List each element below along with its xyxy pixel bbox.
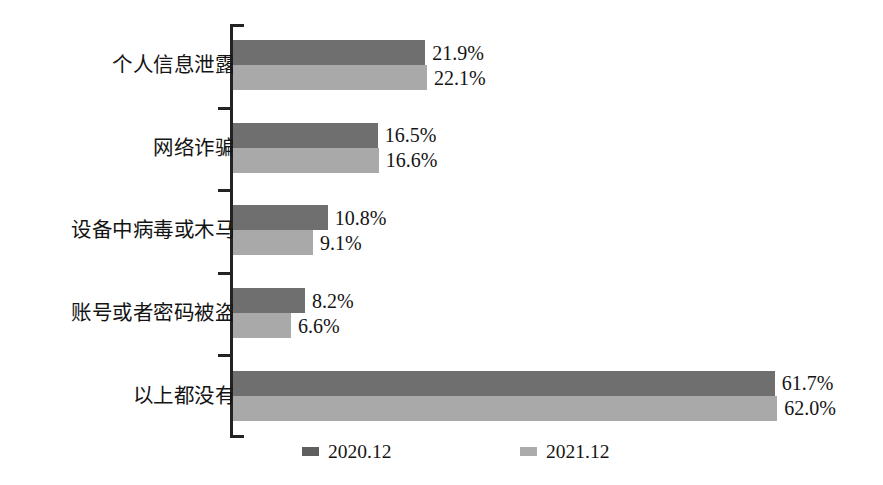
bar-group: 以上都没有61.7%62.0% bbox=[0, 354, 883, 437]
bar-row: 61.7% bbox=[233, 371, 873, 396]
category-label: 个人信息泄露 bbox=[25, 55, 235, 76]
bar-2021[interactable] bbox=[233, 65, 427, 90]
bar-value-label: 62.0% bbox=[777, 398, 836, 418]
legend-label-2020: 2020.12 bbox=[328, 442, 391, 462]
bar-2021[interactable] bbox=[233, 230, 313, 255]
category-label: 以上都没有 bbox=[25, 386, 235, 407]
bar-value-label: 10.8% bbox=[328, 208, 387, 228]
legend-swatch-icon-2021 bbox=[520, 447, 537, 456]
bar-value-label: 6.6% bbox=[291, 316, 340, 336]
legend-label-2021: 2021.12 bbox=[546, 442, 609, 462]
bar-value-label: 21.9% bbox=[425, 43, 484, 63]
bar-2021[interactable] bbox=[233, 396, 777, 421]
plot-area: 个人信息泄露21.9%22.1%网络诈骗16.5%16.6%设备中病毒或木马10… bbox=[0, 0, 883, 440]
bar-row: 10.8% bbox=[233, 205, 873, 230]
horizontal-bar-chart: 个人信息泄露21.9%22.1%网络诈骗16.5%16.6%设备中病毒或木马10… bbox=[0, 0, 883, 485]
bar-2020[interactable] bbox=[233, 288, 305, 313]
bar-row: 22.1% bbox=[233, 65, 873, 90]
bar-row: 16.6% bbox=[233, 148, 873, 173]
bar-row: 6.6% bbox=[233, 313, 873, 338]
bar-2020[interactable] bbox=[233, 40, 425, 65]
legend-item-2020[interactable]: 2020.12 bbox=[302, 442, 391, 462]
bar-2020[interactable] bbox=[233, 371, 775, 396]
bar-2020[interactable] bbox=[233, 123, 378, 148]
bar-group: 个人信息泄露21.9%22.1% bbox=[0, 24, 883, 107]
bar-row: 16.5% bbox=[233, 123, 873, 148]
bar-group: 设备中病毒或木马10.8%9.1% bbox=[0, 189, 883, 272]
bar-group: 网络诈骗16.5%16.6% bbox=[0, 107, 883, 190]
bar-2021[interactable] bbox=[233, 148, 379, 173]
bar-value-label: 8.2% bbox=[305, 291, 354, 311]
category-label: 设备中病毒或木马 bbox=[25, 220, 235, 241]
legend-swatch-icon-2020 bbox=[302, 447, 319, 456]
bar-row: 62.0% bbox=[233, 396, 873, 421]
bar-2021[interactable] bbox=[233, 313, 291, 338]
legend-item-2021[interactable]: 2021.12 bbox=[520, 442, 609, 462]
bar-2020[interactable] bbox=[233, 205, 328, 230]
category-label: 网络诈骗 bbox=[25, 138, 235, 159]
bar-value-label: 16.6% bbox=[379, 150, 438, 170]
bar-row: 21.9% bbox=[233, 40, 873, 65]
bar-value-label: 16.5% bbox=[378, 125, 437, 145]
bar-value-label: 61.7% bbox=[775, 373, 834, 393]
bar-row: 9.1% bbox=[233, 230, 873, 255]
chart-legend: 2020.12 2021.12 bbox=[230, 436, 790, 476]
bar-group: 账号或者密码被盗8.2%6.6% bbox=[0, 272, 883, 355]
bar-row: 8.2% bbox=[233, 288, 873, 313]
bar-value-label: 9.1% bbox=[313, 233, 362, 253]
category-label: 账号或者密码被盗 bbox=[25, 303, 235, 324]
bar-value-label: 22.1% bbox=[427, 68, 486, 88]
